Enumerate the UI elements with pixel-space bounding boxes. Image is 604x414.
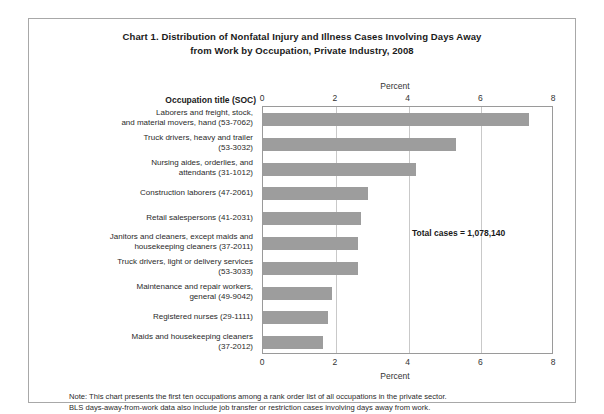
category-label-line: housekeeping cleaners (37-2011)	[59, 242, 253, 252]
bar	[263, 212, 361, 225]
bar	[263, 262, 358, 275]
x-tick-label: 4	[398, 357, 418, 367]
x-tick-label: 8	[543, 357, 563, 367]
category-label-line: Construction laborers (47-2061)	[59, 188, 253, 198]
category-label-line: and material movers, hand (53-7062)	[59, 118, 253, 128]
x-tick-label: 2	[325, 93, 345, 103]
category-label-line: general (49-9042)	[59, 292, 253, 302]
x-axis-label-bottom: Percent	[365, 371, 425, 381]
bar	[263, 187, 368, 200]
bar	[263, 287, 332, 300]
category-label-line: Truck drivers, heavy and trailer	[59, 133, 253, 143]
category-label-line: Nursing aides, orderlies, and	[59, 158, 253, 168]
category-label: Construction laborers (47-2061)	[59, 188, 253, 198]
x-axis-label-top: Percent	[365, 81, 425, 91]
bar	[263, 336, 323, 349]
x-tick-label: 0	[252, 357, 272, 367]
y-axis-header: Occupation title (SOC)	[89, 95, 256, 105]
footnote-line-1: Note: This chart presents the first ten …	[69, 391, 589, 402]
category-label: Retail salespersons (41-2031)	[59, 213, 253, 223]
x-tick-label: 4	[398, 93, 418, 103]
bar	[263, 163, 416, 176]
category-label-line: (37-2012)	[59, 342, 253, 352]
page-title: Chart 1. Distribution of Nonfatal Injury…	[29, 30, 575, 58]
bars-layer	[263, 107, 552, 353]
category-label: Laborers and freight, stock,and material…	[59, 108, 253, 128]
x-tick-label: 8	[543, 93, 563, 103]
category-label-line: Registered nurses (29-1111)	[59, 312, 253, 322]
chart-title-line-2: from Work by Occupation, Private Industr…	[29, 44, 575, 58]
footnote: Note: This chart presents the first ten …	[69, 391, 589, 413]
bar	[263, 237, 358, 250]
category-label-line: Retail salespersons (41-2031)	[59, 213, 253, 223]
category-label-line: Maids and housekeeping cleaners	[59, 332, 253, 342]
x-axis-ticks-bottom: 02468	[262, 357, 554, 369]
category-label: Nursing aides, orderlies, andattendants …	[59, 158, 253, 178]
category-label-line: (53-3032)	[59, 143, 253, 153]
category-label-list: Laborers and freight, stock,and material…	[59, 106, 256, 354]
total-cases-annotation: Total cases = 1,078,140	[412, 228, 505, 238]
footnote-line-2: BLS days-away-from-work data also includ…	[69, 402, 589, 413]
chart-card: Chart 1. Distribution of Nonfatal Injury…	[28, 18, 576, 403]
category-label-line: (53-3033)	[59, 267, 253, 277]
chart-title-line-1: Chart 1. Distribution of Nonfatal Injury…	[29, 30, 575, 44]
x-tick-label: 6	[470, 357, 490, 367]
category-label-line: Laborers and freight, stock,	[59, 108, 253, 118]
category-label: Truck drivers, heavy and trailer(53-3032…	[59, 133, 253, 153]
bar	[263, 138, 456, 151]
x-axis-ticks-top: 02468	[262, 93, 554, 105]
x-tick-label: 0	[252, 93, 272, 103]
x-tick-label: 6	[470, 93, 490, 103]
category-label-line: Truck drivers, light or delivery service…	[59, 257, 253, 267]
category-label-line: Maintenance and repair workers,	[59, 282, 253, 292]
category-label: Janitors and cleaners, except maids andh…	[59, 232, 253, 252]
x-tick-label: 2	[325, 357, 345, 367]
category-label: Maids and housekeeping cleaners(37-2012)	[59, 332, 253, 352]
category-label-line: attendants (31-1012)	[59, 168, 253, 178]
plot-area	[262, 106, 553, 354]
category-label-line: Janitors and cleaners, except maids and	[59, 232, 253, 242]
category-label: Truck drivers, light or delivery service…	[59, 257, 253, 277]
category-label: Maintenance and repair workers,general (…	[59, 282, 253, 302]
bar	[263, 311, 328, 324]
category-label: Registered nurses (29-1111)	[59, 312, 253, 322]
bar	[263, 113, 529, 126]
